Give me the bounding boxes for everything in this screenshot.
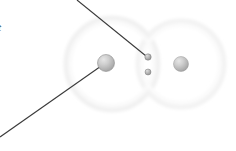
left-edge-label: t — [0, 22, 1, 33]
figure-graphics — [0, 0, 236, 151]
figure-canvas: t — [0, 0, 236, 151]
orbital-rings-group — [66, 18, 224, 110]
center-upper-small-atom — [145, 54, 151, 60]
center-lower-small-atom — [145, 69, 151, 75]
left-large-atom — [98, 55, 115, 72]
right-large-atom — [174, 57, 189, 72]
